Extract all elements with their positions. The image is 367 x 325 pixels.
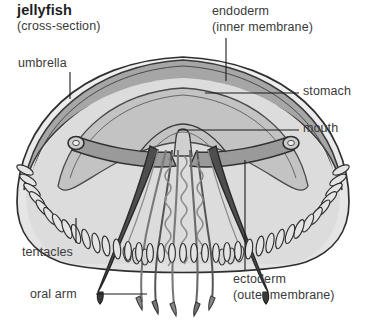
jellyfish-cross-section-figure [0, 0, 367, 325]
label-endoderm: endoderm [212, 4, 269, 19]
label-mouth: mouth [303, 121, 338, 136]
label-tentacles: tentacles [22, 245, 73, 260]
label-ectoderm: ectoderm [233, 272, 286, 287]
label-ectoderm-sub: (outer membrane) [233, 288, 335, 303]
figure-subtitle: (cross-section) [17, 19, 100, 34]
label-endoderm-sub: (inner membrane) [212, 20, 313, 35]
label-umbrella: umbrella [18, 56, 67, 71]
label-stomach: stomach [303, 84, 351, 99]
label-oral-arm: oral arm [30, 287, 77, 302]
figure-title: jellyfish [17, 3, 72, 18]
